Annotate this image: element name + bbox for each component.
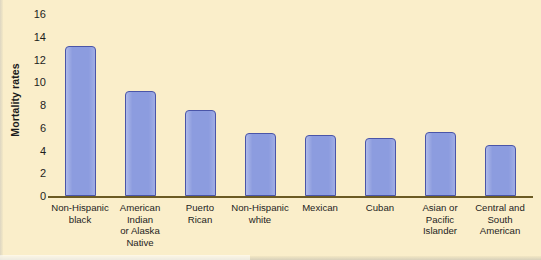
y-tick-label: 8 <box>24 99 46 111</box>
bar <box>65 46 96 196</box>
y-tick-label: 14 <box>24 31 46 43</box>
bar <box>305 135 336 196</box>
x-category-label: Central andSouthAmerican <box>469 202 531 237</box>
y-tick-label: 10 <box>24 76 46 88</box>
y-tick-label: 2 <box>24 167 46 179</box>
y-tick-label: 16 <box>24 8 46 20</box>
x-axis-line <box>48 196 533 198</box>
y-axis-tick-labels: 0246810121416 <box>22 0 46 260</box>
bar <box>365 138 396 196</box>
y-tick-label: 0 <box>24 190 46 202</box>
bar-chart-figure: Mortality rates 0246810121416 Non-Hispan… <box>0 0 541 260</box>
bar <box>245 133 276 196</box>
x-category-label: Asian orPacificIslander <box>409 202 471 237</box>
bar <box>485 145 516 196</box>
plot-area <box>50 8 530 196</box>
bar <box>185 110 216 196</box>
y-tick-label: 6 <box>24 122 46 134</box>
y-tick-label: 4 <box>24 145 46 157</box>
y-axis-title-text: Mortality rates <box>9 63 21 136</box>
x-axis-category-labels: Non-HispanicblackAmericanIndianor Alaska… <box>50 200 535 260</box>
bar <box>425 132 456 196</box>
x-category-label: PuertoRican <box>169 202 231 225</box>
x-category-label: Non-Hispanicblack <box>49 202 111 225</box>
bar <box>125 91 156 196</box>
x-category-label: AmericanIndianor AlaskaNative <box>109 202 171 248</box>
x-category-label: Mexican <box>289 202 351 214</box>
y-tick-label: 12 <box>24 54 46 66</box>
page-edge-bottom-highlight <box>0 255 250 260</box>
x-category-label: Cuban <box>349 202 411 214</box>
x-category-label: Non-Hispanicwhite <box>229 202 291 225</box>
